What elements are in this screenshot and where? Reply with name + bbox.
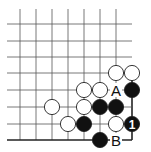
black-stone	[124, 82, 139, 97]
white-stone	[76, 99, 91, 114]
white-stone	[92, 82, 107, 97]
go-board: 1 AB	[0, 0, 151, 152]
white-stone	[124, 65, 139, 80]
point-label-a: A	[111, 82, 121, 99]
black-stone	[92, 99, 107, 114]
black-stone	[108, 99, 123, 114]
point-label-b: B	[111, 132, 121, 149]
white-stone	[60, 116, 75, 131]
white-stone	[76, 82, 91, 97]
white-stone	[108, 65, 123, 80]
black-stone	[92, 132, 107, 147]
move-number-label: 1	[129, 118, 136, 132]
white-stone	[108, 116, 123, 131]
stones-layer: 1	[44, 65, 139, 147]
white-stone	[44, 99, 59, 114]
black-stone	[76, 116, 91, 131]
